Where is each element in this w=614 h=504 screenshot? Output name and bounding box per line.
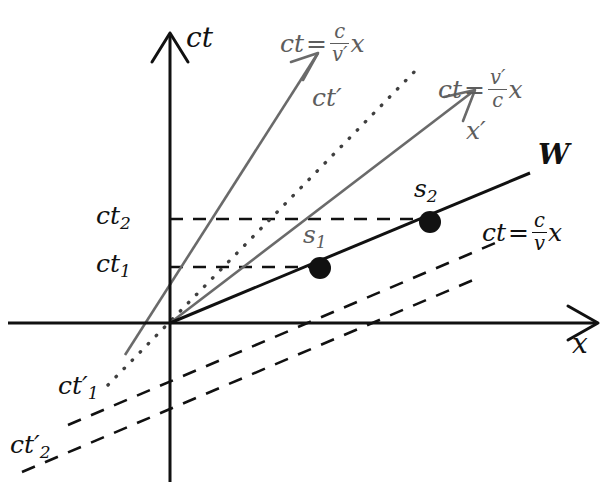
tick-label-ct2-prime: ct′2 [10, 432, 51, 461]
event-point-s2 [419, 211, 441, 233]
event-label-s1-subscript: 1 [316, 232, 327, 252]
event-label-s2-name: s [414, 174, 427, 203]
worldline-eq-numerator: c [532, 211, 547, 233]
ct-prime-axis-label-text: ct [312, 83, 336, 112]
event-point-s1 [309, 257, 331, 279]
x-prime-axis-line [170, 90, 475, 323]
worldline-eq-lhs: ct [482, 218, 506, 247]
ct-axis-label: ct [186, 24, 213, 52]
tick-label-ct1-text: ct [96, 249, 120, 278]
ct-prime-axis-label-prime: ′ [336, 83, 342, 112]
x-prime-axis-label: x′ [466, 118, 486, 143]
worldline-label-W: W [538, 141, 569, 169]
event-label-s1-name: s [303, 220, 316, 249]
worldline-eq-rhs: x [548, 218, 562, 247]
x-prime-eq-operator: = [464, 75, 485, 104]
x-axis-group [8, 306, 598, 340]
ct-prime-axis-label: ct′ [312, 85, 342, 110]
ct-prime-eq-lhs: ct [280, 29, 304, 58]
simultaneity-lines-group [22, 241, 500, 472]
tick-label-ct1-prime: ct′1 [58, 373, 99, 402]
x-prime-eq-rhs: x [508, 75, 522, 104]
x-prime-eq-fraction: v′c [488, 68, 507, 111]
event-label-s2: s2 [414, 176, 438, 205]
worldline-eq-denominator: v [532, 233, 547, 254]
x-prime-eq-numerator: v′ [488, 68, 507, 90]
worldline-eq-operator: = [508, 218, 529, 247]
tick-label-ct2-prime-text: ct [10, 430, 34, 459]
ct-prime-axis-line [125, 53, 318, 355]
x-axis-label: x [572, 330, 588, 358]
tick-label-ct2-text: ct [96, 201, 120, 230]
x-prime-axis-label-text: x [466, 116, 480, 145]
event-label-s2-subscript: 2 [427, 186, 438, 206]
x-prime-eq-lhs: ct [438, 75, 462, 104]
x-prime-eq-denominator: c [488, 90, 507, 111]
tick-label-ct1: ct1 [96, 251, 131, 280]
ct-projection-lines-group [170, 219, 432, 267]
tick-label-ct1-prime-subscript: 1 [88, 383, 99, 403]
worldline-eq-fraction: cv [532, 211, 547, 254]
x-prime-axis-equation: ct=v′cx [438, 68, 523, 111]
ct-prime-eq-denominator: v′ [330, 44, 349, 65]
event-label-s1: s1 [303, 222, 327, 251]
worldline-W [170, 173, 530, 323]
simultaneity-line-s1 [68, 241, 500, 425]
tick-label-ct1-prime-text: ct [58, 371, 82, 400]
spacetime-diagram-figure: ct x ct′ x′ ct=cv′x ct=v′cx W ct=cvx s1 … [0, 0, 614, 504]
tick-label-ct1-subscript: 1 [120, 261, 131, 281]
x-prime-axis-label-prime: ′ [480, 116, 486, 145]
tick-label-ct2: ct2 [96, 203, 131, 232]
ct-prime-axis-equation: ct=cv′x [280, 22, 365, 65]
worldline-equation: ct=cvx [482, 211, 562, 254]
tick-label-ct2-prime-subscript: 2 [40, 442, 51, 462]
tick-label-ct2-subscript: 2 [120, 213, 131, 233]
ct-prime-eq-rhs: x [350, 29, 364, 58]
ct-prime-axis-group [125, 53, 318, 355]
ct-prime-eq-fraction: cv′ [330, 22, 349, 65]
ct-axis-group [152, 33, 188, 482]
ct-prime-eq-operator: = [306, 29, 327, 58]
x-prime-axis-group [170, 90, 475, 323]
ct-prime-eq-numerator: c [330, 22, 349, 44]
light-cone-line [108, 68, 418, 385]
